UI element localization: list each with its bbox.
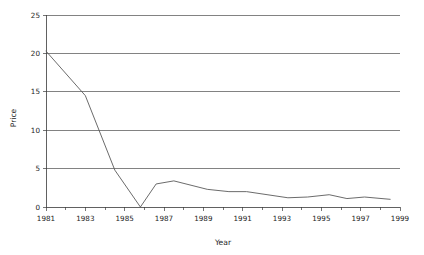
- x-tick-label: 1981: [37, 214, 55, 223]
- y-tick-label: 10: [31, 126, 41, 135]
- x-tick-label: 1983: [76, 214, 94, 223]
- x-tick-label: 1985: [116, 214, 134, 223]
- y-tick-label: 5: [35, 164, 40, 173]
- y-tick-label: 15: [31, 87, 40, 96]
- line-chart: 1981198319851987198919911993199519971999…: [0, 0, 424, 255]
- x-tick-label: 1991: [234, 214, 252, 223]
- x-axis-title: Year: [214, 238, 232, 247]
- x-tick-label: 1989: [194, 214, 213, 223]
- y-tick-label: 0: [35, 203, 40, 212]
- x-tick-label: 1999: [391, 214, 410, 223]
- y-tick-label: 25: [31, 11, 40, 20]
- x-tick-label: 1997: [352, 214, 370, 223]
- chart-canvas: 1981198319851987198919911993199519971999…: [0, 0, 424, 255]
- y-axis-title: Price: [9, 108, 18, 127]
- x-tick-label: 1987: [155, 214, 173, 223]
- y-tick-label: 20: [31, 49, 41, 58]
- x-tick-label: 1993: [273, 214, 291, 223]
- x-tick-label: 1995: [312, 214, 330, 223]
